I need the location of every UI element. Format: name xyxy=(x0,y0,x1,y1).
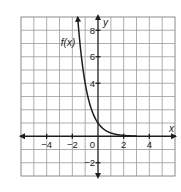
curves xyxy=(75,16,136,136)
series-label-f-of-x: f(x) xyxy=(61,37,75,48)
y-tick-label: 4 xyxy=(90,78,95,89)
y-tick-label: 6 xyxy=(90,51,95,62)
exponential-graph: −4−224864−20xyf(x) xyxy=(0,0,181,192)
y-axis-label: y xyxy=(102,17,109,28)
labels: −4−224864−20xyf(x) xyxy=(41,17,175,168)
x-axis-arrow-left xyxy=(19,133,25,139)
y-tick-label: 8 xyxy=(90,25,95,36)
x-tick-label: 2 xyxy=(121,139,126,150)
x-tick-label: −4 xyxy=(41,139,52,150)
x-tick-label: −2 xyxy=(67,139,78,150)
origin-label: 0 xyxy=(90,139,95,150)
x-tick-label: 4 xyxy=(147,139,152,150)
curve-f-of-x xyxy=(78,18,137,136)
x-axis-label: x xyxy=(168,123,175,134)
y-tick-label: −2 xyxy=(84,157,95,168)
